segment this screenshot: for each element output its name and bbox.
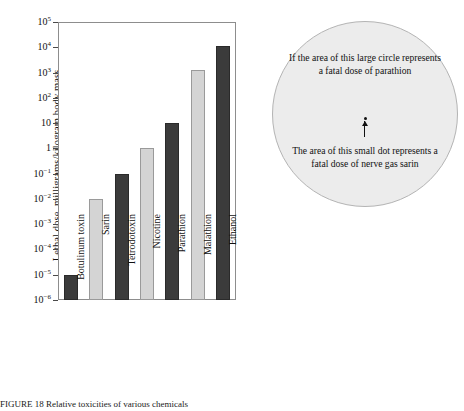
y-axis-tick-label: 10−6 <box>34 293 51 306</box>
callout-text-large-circle: If the area of this large circle represe… <box>287 51 443 77</box>
y-axis-tick-label: 104 <box>38 40 52 53</box>
y-axis-tick-label: 10−5 <box>34 268 51 281</box>
y-axis-tick-label: 10−3 <box>34 217 51 230</box>
y-axis-tick-label: 102 <box>38 91 52 104</box>
chart-panel: Lethal dose, milligrams/kilogram body ma… <box>0 0 250 400</box>
y-axis-tick-label: 10−1 <box>34 167 51 180</box>
figure-toxicity-chart: Lethal dose, milligrams/kilogram body ma… <box>0 0 464 411</box>
y-axis-tick-label: 10−2 <box>34 192 51 205</box>
y-axis: 10510410310210110−110−210−310−410−510−6 <box>0 22 58 300</box>
y-axis-tick-label: 103 <box>38 66 52 79</box>
x-axis-label-ethanol: Ethanol <box>227 214 238 304</box>
y-axis-tick-label: 1 <box>46 141 51 154</box>
x-axis-label-parathion: Parathion <box>176 214 187 304</box>
x-axis-label-nicotine: Nicotine <box>151 214 162 304</box>
y-axis-tick-label: 10 <box>41 116 51 129</box>
callout-arrow-icon <box>364 121 365 137</box>
x-axis-label-sarin: Sarin <box>100 214 111 304</box>
y-axis-tick-label: 105 <box>38 15 52 28</box>
callout-text-small-dot: The area of this small dot represents a … <box>287 144 443 170</box>
y-axis-tick-label: 10−4 <box>34 242 51 255</box>
x-axis-label-botulinum-toxin: Botulinum toxin <box>75 214 86 304</box>
callout-circle: If the area of this large circle represe… <box>272 21 458 207</box>
x-axis-labels: Botulinum toxinSarinTetrodotoxinNicotine… <box>58 300 236 400</box>
callout-small-dot <box>364 117 367 120</box>
x-axis-label-tetrodotoxin: Tetrodotoxin <box>126 214 137 304</box>
x-axis-label-malathion: Malathion <box>202 214 213 304</box>
figure-caption: FIGURE 18 Relative toxicities of various… <box>0 399 464 410</box>
